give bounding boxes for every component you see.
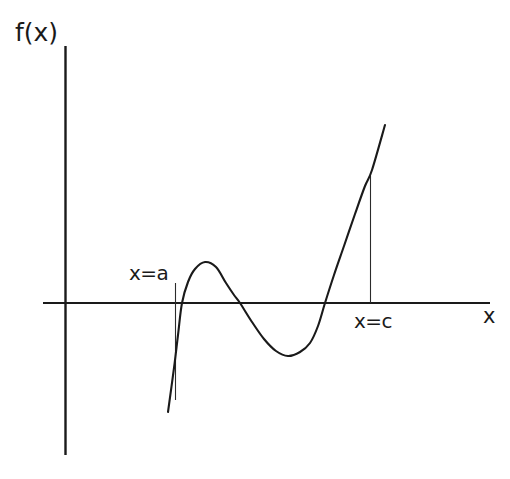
function-curve — [168, 125, 385, 412]
plot-canvas — [0, 0, 510, 479]
y-axis-label: f(x) — [15, 20, 58, 45]
marker-label-c: x=c — [354, 311, 392, 331]
function-graph-figure: f(x) x x=a x=c — [0, 0, 510, 479]
marker-label-a: x=a — [129, 263, 168, 283]
x-axis-label: x — [483, 306, 495, 327]
